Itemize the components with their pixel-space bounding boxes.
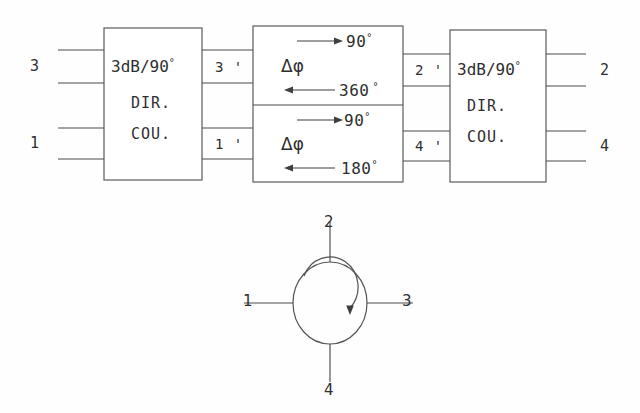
upper-forward-degree-icon: ° [366, 32, 373, 43]
right-coupler-degree-icon: ° [515, 60, 521, 71]
left-coupler-title: 3dB/90° [111, 58, 175, 75]
upper-delta-phi-symbol: Δφ [281, 58, 304, 75]
port-label-4-prime: 4 ' [415, 139, 443, 153]
lower-delta-phi-symbol: Δφ [281, 136, 304, 153]
upper-forward-phase-value: 90 [346, 32, 366, 51]
right-coupler-output-waveguides [546, 54, 586, 161]
right-coupler-title: 3dB/90° [457, 61, 521, 78]
right-coupler-title-text: 3dB/90 [457, 60, 515, 79]
port-label-2-output: 2 [600, 63, 610, 78]
diagram-canvas [0, 0, 640, 413]
left-coupler-title-text: 3dB/90 [111, 57, 169, 76]
left-coupler-line3: COU. [131, 127, 171, 142]
rf-network-diagram: 3 1 3dB/90° DIR. COU. 3 ' 1 ' 90° Δφ 360… [0, 0, 640, 413]
circulator-port-label-1: 1 [243, 294, 253, 309]
right-coupler-line3: COU. [467, 130, 507, 145]
lower-forward-degree-icon: ° [364, 111, 371, 122]
port-label-1-prime: 1 ' [215, 137, 243, 151]
left-coupler-line2: DIR. [131, 96, 171, 111]
upper-reverse-phase-value: 360 [339, 81, 369, 100]
left-coupler-degree-icon: ° [169, 57, 175, 68]
circulator-rotation-arc [304, 257, 358, 308]
upper-reverse-degree-icon: ° [372, 81, 379, 92]
right-coupler-line2: DIR. [467, 99, 507, 114]
port-label-3-prime: 3 ' [215, 60, 243, 74]
circulator-port-label-2: 2 [324, 215, 334, 230]
left-coupler-input-waveguides [58, 50, 104, 159]
phase-shifter-box [253, 26, 403, 182]
lower-reverse-phase: 180° [341, 160, 378, 177]
circulator-arrowhead [346, 306, 354, 316]
lower-reverse-degree-icon: ° [371, 159, 378, 170]
port-label-1-input: 1 [30, 136, 40, 151]
upper-forward-phase: 90° [346, 33, 373, 50]
circulator-port-label-4: 4 [324, 383, 334, 398]
lower-forward-phase: 90° [344, 112, 371, 129]
port-label-3-input: 3 [30, 59, 40, 74]
lower-forward-phase-value: 90 [344, 111, 364, 130]
port-label-2-prime: 2 ' [415, 63, 443, 77]
port-label-4-output: 4 [600, 139, 610, 154]
circulator-port-label-3: 3 [402, 294, 412, 309]
upper-reverse-phase: 360° [339, 82, 379, 99]
circulator-symbol [244, 222, 413, 382]
lower-reverse-phase-value: 180 [341, 159, 371, 178]
